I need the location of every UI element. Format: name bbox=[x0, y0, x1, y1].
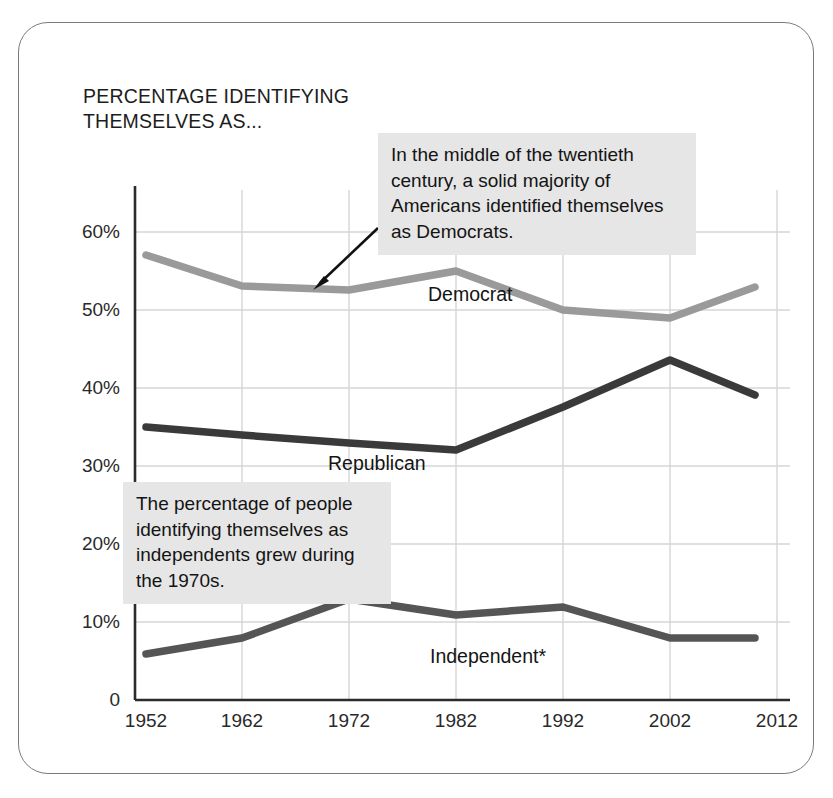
x-tick-label-1982: 1982 bbox=[416, 710, 496, 732]
x-tick-label-1962: 1962 bbox=[202, 710, 282, 732]
chart-figure: PERCENTAGE IDENTIFYING THEMSELVES AS... bbox=[0, 0, 833, 798]
callout-independent: The percentage of people identifying the… bbox=[123, 482, 391, 604]
callout-democrat: In the middle of the twentieth century, … bbox=[378, 133, 696, 255]
x-tick-label-1992: 1992 bbox=[523, 710, 603, 732]
x-tick-label-1952: 1952 bbox=[106, 710, 186, 732]
series-label-democrat: Democrat bbox=[428, 283, 513, 306]
x-tick-label-1972: 1972 bbox=[309, 710, 389, 732]
y-tick-label-30: 30% bbox=[48, 455, 120, 477]
y-tick-label-50: 50% bbox=[48, 299, 120, 321]
series-label-independent: Independent* bbox=[430, 645, 546, 668]
y-tick-label-60: 60% bbox=[48, 221, 120, 243]
x-tick-label-2002: 2002 bbox=[630, 710, 710, 732]
series-line-republican bbox=[146, 360, 755, 450]
y-tick-label-10: 10% bbox=[48, 611, 120, 633]
line-chart-plot bbox=[0, 0, 833, 798]
arrow-democrat-icon bbox=[313, 228, 378, 290]
y-tick-label-20: 20% bbox=[48, 533, 120, 555]
y-tick-label-40: 40% bbox=[48, 377, 120, 399]
gridlines-vertical bbox=[242, 190, 777, 700]
series-label-republican: Republican bbox=[328, 452, 426, 475]
x-tick-label-2012: 2012 bbox=[737, 710, 817, 732]
y-tick-label-0: 0 bbox=[48, 689, 120, 711]
